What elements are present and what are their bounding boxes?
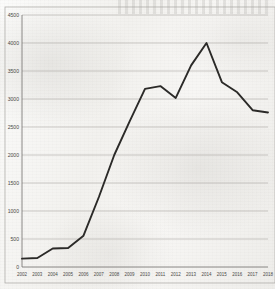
x-axis-tick-label: 2006 bbox=[78, 272, 89, 277]
y-axis-tick-label: 500 bbox=[11, 236, 20, 242]
data-series bbox=[22, 43, 268, 259]
x-axis-tick-label: 2011 bbox=[156, 272, 166, 277]
y-axis-tick-labels: 050010001500200025003000350040004500 bbox=[8, 12, 20, 270]
y-axis-tick-label: 2500 bbox=[8, 124, 19, 130]
x-axis-tick-label: 2009 bbox=[125, 272, 136, 277]
chart-canvas: 050010001500200025003000350040004500 200… bbox=[0, 0, 275, 289]
x-axis-tick-label: 2018 bbox=[263, 272, 274, 277]
y-axis-tick-label: 1500 bbox=[8, 180, 19, 186]
x-axis-tick-label: 2010 bbox=[140, 272, 151, 277]
x-axis-tick-label: 2012 bbox=[171, 272, 182, 277]
x-axis-tick-label: 2003 bbox=[32, 272, 43, 277]
y-axis-tick-label: 0 bbox=[16, 264, 19, 270]
x-axis-tick-label: 2008 bbox=[109, 272, 120, 277]
plot-frame bbox=[5, 7, 275, 283]
y-axis-tick-label: 2000 bbox=[8, 152, 19, 158]
x-axis-tick-label: 2014 bbox=[201, 272, 212, 277]
y-axis-tick-label: 3500 bbox=[8, 68, 19, 74]
gridlines bbox=[22, 15, 268, 267]
y-axis-tick-label: 1000 bbox=[8, 208, 19, 214]
data-line-series bbox=[22, 43, 268, 259]
y-axis-tick-label: 3000 bbox=[8, 96, 19, 102]
x-axis-tick-labels: 2002200320042005200620072008200920102011… bbox=[17, 272, 274, 277]
x-axis-tick-label: 2016 bbox=[232, 272, 243, 277]
x-axis-tick-label: 2004 bbox=[48, 272, 59, 277]
x-axis-tick-label: 2007 bbox=[94, 272, 105, 277]
y-axis-tick-label: 4000 bbox=[8, 40, 19, 46]
x-axis-tick-label: 2017 bbox=[248, 272, 259, 277]
line-chart: 050010001500200025003000350040004500 200… bbox=[0, 0, 275, 289]
x-axis-tick-label: 2015 bbox=[217, 272, 228, 277]
chart-border bbox=[5, 7, 275, 283]
x-axis-tick-label: 2005 bbox=[63, 272, 74, 277]
x-axis-tick-label: 2002 bbox=[17, 272, 28, 277]
y-axis-tick-label: 4500 bbox=[8, 12, 19, 18]
x-axis-tick-label: 2013 bbox=[186, 272, 197, 277]
